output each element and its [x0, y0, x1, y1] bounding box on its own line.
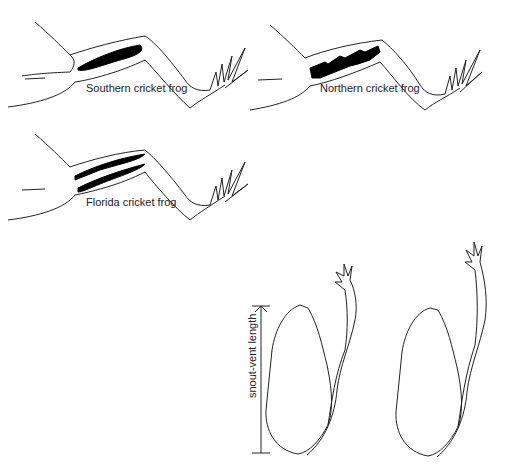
frog-outline-measured [266, 264, 356, 455]
florida-stripe-lower [78, 164, 145, 192]
label-northern: Northern cricket frog [320, 82, 420, 94]
label-snout-vent: snout-vent length [246, 314, 258, 398]
northern-stripe [310, 46, 380, 78]
label-florida: Florida cricket frog [86, 196, 176, 208]
frog-outline [396, 242, 486, 457]
frog-diagram [0, 0, 510, 476]
southern-leg-drawing [8, 22, 248, 108]
northern-leg-drawing [250, 25, 482, 110]
label-southern: Southern cricket frog [86, 82, 188, 94]
